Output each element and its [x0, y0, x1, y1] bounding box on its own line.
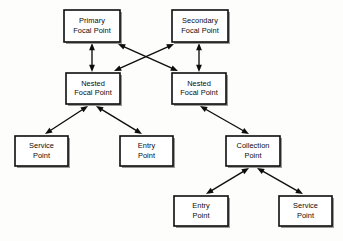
edge-nested-left-to-service-left-arrowhead-end: [45, 128, 53, 134]
node-label-line1: Service: [293, 201, 318, 210]
nodes-layer: PrimaryFocal PointSecondaryFocal PointNe…: [15, 10, 334, 228]
node-label-line2: Focal Point: [181, 26, 219, 35]
edge-collection-to-service-bottom[interactable]: [257, 168, 303, 194]
node-label-line2: Point: [244, 151, 261, 160]
node-entry-point-bottom[interactable]: EntryPoint: [174, 196, 230, 228]
edge-nested-right-to-collection-arrowhead-end: [241, 128, 249, 134]
edge-secondary-to-nested-left-arrowhead-end: [114, 65, 122, 71]
edge-nested-left-to-entry-middle-arrowhead-end: [134, 128, 142, 134]
node-label-line2: Point: [33, 151, 50, 160]
node-label-line1: Nested: [81, 79, 105, 88]
node-label-line2: Focal Point: [73, 26, 111, 35]
node-label-line2: Focal Point: [74, 88, 112, 97]
edge-secondary-to-nested-right-arrowhead-end: [196, 65, 202, 72]
edge-collection-to-service-bottom-arrowhead-start: [257, 168, 265, 174]
edge-collection-to-entry-bottom-arrowhead-end: [206, 188, 214, 194]
edge-nested-left-to-entry-middle-arrowhead-start: [96, 106, 104, 112]
node-label-line1: Secondary: [182, 16, 218, 25]
edge-nested-right-to-collection-line: [204, 108, 244, 131]
edge-secondary-to-nested-right[interactable]: [196, 43, 202, 72]
edge-primary-to-nested-left[interactable]: [89, 43, 95, 72]
edge-collection-to-service-bottom-arrowhead-end: [295, 188, 303, 194]
node-label-line1: Service: [29, 141, 54, 150]
node-label-line1: Nested: [187, 79, 211, 88]
edge-collection-to-service-bottom-line: [261, 170, 298, 191]
edge-collection-to-entry-bottom-line: [210, 171, 244, 192]
diagram-svg: PrimaryFocal PointSecondaryFocal PointNe…: [0, 0, 343, 241]
node-label-line1: Collection: [237, 141, 270, 150]
edge-primary-to-nested-right-arrowhead-start: [118, 44, 126, 50]
edge-nested-right-to-collection[interactable]: [200, 106, 249, 134]
node-label-line2: Point: [138, 151, 155, 160]
node-secondary-focal-point[interactable]: SecondaryFocal Point: [172, 10, 230, 44]
node-label-line1: Entry: [138, 141, 156, 150]
node-label-line1: Primary: [79, 16, 105, 25]
node-primary-focal-point[interactable]: PrimaryFocal Point: [64, 10, 122, 44]
edge-collection-to-entry-bottom[interactable]: [206, 168, 249, 194]
node-entry-point-middle[interactable]: EntryPoint: [120, 136, 175, 168]
edge-primary-to-nested-right-arrowhead-end: [170, 65, 178, 71]
node-label-line2: Point: [297, 211, 314, 220]
edge-secondary-to-nested-left-line: [119, 46, 170, 69]
diagram-canvas: PrimaryFocal PointSecondaryFocal PointNe…: [0, 0, 343, 241]
edge-nested-left-to-service-left-arrowhead-start: [80, 106, 88, 112]
edge-nested-left-to-service-left[interactable]: [45, 106, 88, 134]
edge-nested-left-to-service-left-line: [49, 109, 84, 132]
node-label-line2: Focal Point: [180, 88, 218, 97]
edge-nested-right-to-collection-arrowhead-start: [200, 106, 208, 112]
edge-primary-to-nested-left-arrowhead-end: [89, 65, 95, 72]
edge-primary-to-nested-right-line: [123, 46, 174, 69]
edge-nested-left-to-entry-middle[interactable]: [96, 106, 142, 134]
node-nested-focal-point-right[interactable]: NestedFocal Point: [172, 73, 228, 106]
edge-nested-left-to-entry-middle-line: [100, 109, 137, 132]
edge-secondary-to-nested-right-arrowhead-start: [196, 43, 202, 50]
edge-secondary-to-nested-left-arrowhead-start: [166, 44, 174, 50]
node-label-line1: Entry: [192, 201, 210, 210]
node-service-point-bottom[interactable]: ServicePoint: [279, 196, 334, 228]
edge-collection-to-entry-bottom-arrowhead-start: [241, 168, 249, 174]
edges-layer: [45, 43, 303, 194]
node-label-line2: Point: [192, 211, 209, 220]
edge-primary-to-nested-left-arrowhead-start: [89, 43, 95, 50]
node-collection-point[interactable]: CollectionPoint: [226, 136, 282, 168]
node-nested-focal-point-left[interactable]: NestedFocal Point: [66, 73, 122, 106]
node-service-point-left[interactable]: ServicePoint: [15, 136, 70, 168]
